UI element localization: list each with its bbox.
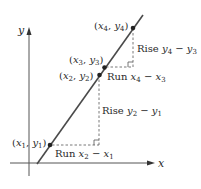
y-axis-arrow-icon bbox=[27, 27, 32, 35]
point-2-label: (x2, y2) bbox=[59, 70, 94, 83]
point-1 bbox=[48, 143, 53, 148]
point-3 bbox=[102, 65, 107, 70]
x-axis-label: x bbox=[158, 157, 165, 170]
slope-diagram: x y (x1, y1) (x2, y2) (x3, y3) (x4, y4) … bbox=[0, 0, 201, 189]
sloped-line bbox=[37, 15, 143, 164]
y-axis-label: y bbox=[17, 24, 25, 37]
point-3-label: (x3, y3) bbox=[69, 54, 104, 67]
rise-1-label: Rise y2 − y1 bbox=[102, 105, 162, 118]
point-4-label: (x4, y4) bbox=[94, 20, 129, 33]
x-axis-arrow-icon bbox=[147, 161, 155, 166]
right-angle-icon bbox=[128, 62, 133, 67]
run-2-label: Run x4 − x3 bbox=[107, 71, 166, 84]
run-1-label: Run x2 − x1 bbox=[55, 148, 114, 161]
point-2 bbox=[97, 73, 102, 78]
right-angle-icon bbox=[94, 140, 99, 145]
rise-2-label: Rise y4 − y3 bbox=[137, 43, 197, 56]
point-4 bbox=[131, 26, 136, 31]
